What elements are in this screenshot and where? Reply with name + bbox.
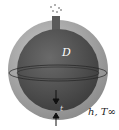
thickness-label: t — [60, 104, 63, 113]
diameter-label: D — [62, 46, 71, 59]
ambient-label: h, T∞ — [88, 106, 116, 117]
gas-bubbles-icon — [50, 4, 62, 13]
